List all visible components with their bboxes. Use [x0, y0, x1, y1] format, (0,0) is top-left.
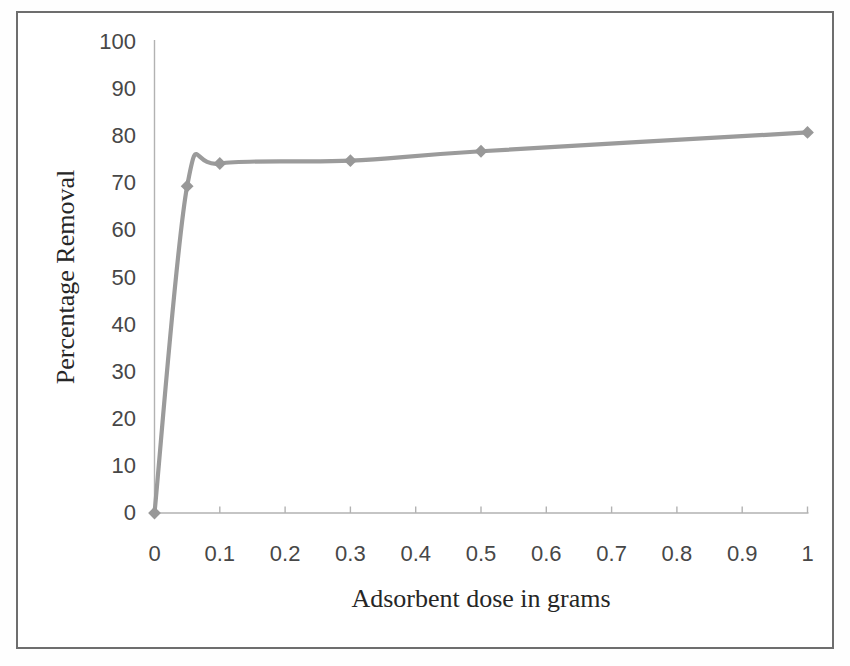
y-tick-label: 100 [58, 29, 136, 55]
y-tick-label: 20 [58, 406, 136, 432]
y-tick-label: 10 [58, 453, 136, 479]
chart-figure: 0102030405060708090100 00.10.20.30.40.50… [0, 0, 850, 666]
x-tick-label: 0.9 [707, 541, 777, 567]
x-tick-label: 0.4 [381, 541, 451, 567]
x-tick-label: 0.2 [250, 541, 320, 567]
x-tick-label: 0.3 [315, 541, 385, 567]
y-tick-label: 0 [58, 500, 136, 526]
x-tick-label: 0.5 [446, 541, 516, 567]
x-tick-label: 1 [773, 541, 843, 567]
x-tick-label: 0.8 [642, 541, 712, 567]
y-axis-title: Percentage Removal [51, 170, 81, 384]
y-tick-label: 90 [58, 76, 136, 102]
x-tick-label: 0.6 [511, 541, 581, 567]
x-tick-label: 0.7 [577, 541, 647, 567]
x-tick-label: 0 [120, 541, 190, 567]
x-tick-label: 0.1 [185, 541, 255, 567]
y-tick-label: 80 [58, 123, 136, 149]
x-axis-title: Adsorbent dose in grams [351, 584, 610, 614]
